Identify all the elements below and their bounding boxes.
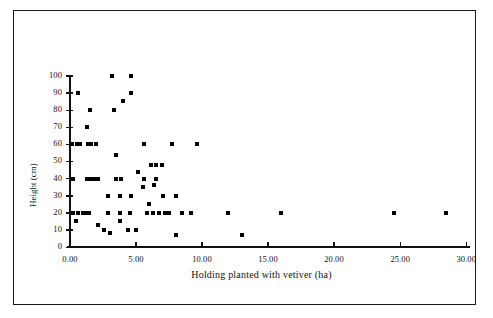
data-point [157,211,161,215]
y-axis-title: Height (cm) [28,163,38,207]
data-point [71,177,75,181]
data-point [118,219,122,223]
data-point [129,91,133,95]
data-point [392,211,396,215]
data-point [154,163,158,167]
data-point [78,142,82,146]
data-point [114,177,118,181]
data-point [174,233,178,237]
data-point [119,177,123,181]
data-point [142,142,146,146]
y-tick-label: 40 [40,174,62,183]
data-point [128,211,132,215]
data-point [226,211,230,215]
y-tick-label: 100 [40,71,62,80]
x-tick-label: 30.00 [448,255,484,264]
y-tick-label: 20 [40,208,62,217]
data-point [142,177,146,181]
x-tick-label: 15.00 [250,255,286,264]
x-axis-line [67,246,353,247]
x-axis-line [337,246,471,247]
data-point [71,211,75,215]
data-point [161,194,165,198]
data-point [114,153,118,157]
data-point [180,211,184,215]
data-point [96,177,100,181]
data-point [76,211,80,215]
x-tick-label: 0.00 [52,255,88,264]
scatter-plot: Height (cm) Holding planted with vetiver… [0,0,493,318]
data-point [70,142,74,146]
data-point [110,74,114,78]
data-point [136,170,140,174]
data-point [145,211,149,215]
data-point [154,177,158,181]
data-point [444,211,448,215]
data-point [240,233,244,237]
data-point [87,211,91,215]
data-point [129,74,133,78]
data-point [170,142,174,146]
x-tick-label: 10.00 [184,255,220,264]
data-point [108,231,112,235]
data-point [76,91,80,95]
x-tick-label: 20.00 [316,255,352,264]
x-axis-title: Holding planted with vetiver (ha) [0,269,493,280]
data-point [129,194,133,198]
data-point [141,185,145,189]
y-tick-label: 10 [40,225,62,234]
data-point [160,163,164,167]
data-point [106,194,110,198]
data-point [151,211,155,215]
data-point [174,194,178,198]
y-tick-label: 30 [40,191,62,200]
data-point [121,99,125,103]
data-point [147,202,151,206]
y-tick-label: 60 [40,139,62,148]
y-tick-label: 90 [40,88,62,97]
data-point [195,142,199,146]
data-point [94,142,98,146]
data-point [102,228,106,232]
data-point [74,219,78,223]
data-point [106,211,110,215]
y-tick-label: 70 [40,122,62,131]
y-axis-line [69,76,71,247]
data-point [85,125,89,129]
data-point [279,211,283,215]
data-point [152,183,156,187]
data-point [112,108,116,112]
x-tick-label: 25.00 [382,255,418,264]
data-point [88,108,92,112]
x-tick-label: 5.00 [118,255,154,264]
data-point [96,223,100,227]
data-point [89,142,93,146]
data-point [126,228,130,232]
y-tick-label: 80 [40,105,62,114]
data-point [134,228,138,232]
y-tick-label: 0 [40,242,62,251]
data-point [118,194,122,198]
data-point [149,163,153,167]
data-point [167,211,171,215]
data-point [189,211,193,215]
data-point [118,211,122,215]
y-tick-label: 50 [40,156,62,165]
